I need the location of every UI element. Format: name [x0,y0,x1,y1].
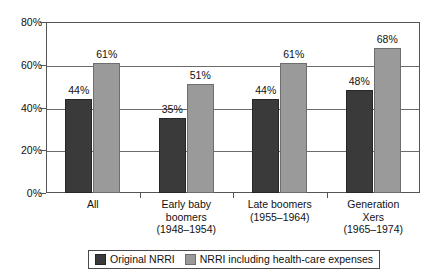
y-tick-label: 60% [2,60,42,70]
bar [252,99,279,193]
y-tick-label: 40% [2,103,42,113]
x-category-label-line: (1948–1954) [128,223,246,236]
legend-item: NRRI including health-care expenses [185,254,373,265]
bar-value-label: 61% [87,49,126,60]
y-tick-label: 80% [2,17,42,27]
y-tick-label: 0% [2,188,42,198]
legend-swatch [95,254,106,265]
x-tick-mark [233,193,234,198]
chart-legend: Original NRRINRRI including health-care … [88,250,380,269]
bar [280,63,307,193]
legend-label: NRRI including health-care expenses [200,254,373,265]
bar-value-label: 51% [181,70,220,81]
bar-chart: 0%20%40%60%80% AllEarly babyboomers(1948… [0,0,437,278]
bar-value-label: 35% [153,104,192,115]
bar [374,48,401,193]
bar-value-label: 44% [246,85,285,96]
x-tick-mark [140,193,141,198]
legend-swatch [185,254,196,265]
bar-value-label: 44% [59,85,98,96]
x-category-label-line: Generation [315,198,433,211]
bar [159,118,186,193]
y-axis: 0%20%40%60%80% [0,0,42,278]
bar [65,99,92,193]
bar-value-label: 48% [340,76,379,87]
x-category-label: GenerationXers(1965–1974) [315,198,433,236]
bar [187,84,214,193]
bar [93,63,120,193]
x-category-label-line: Xers [315,211,433,224]
y-tick-mark [40,193,46,194]
x-category-label-line: (1965–1974) [315,223,433,236]
bar [346,90,373,193]
y-tick-label: 20% [2,145,42,155]
legend-item: Original NRRI [95,254,175,265]
x-tick-mark [327,193,328,198]
bar-value-label: 68% [368,34,407,45]
legend-label: Original NRRI [110,254,175,265]
bar-value-label: 61% [274,49,313,60]
